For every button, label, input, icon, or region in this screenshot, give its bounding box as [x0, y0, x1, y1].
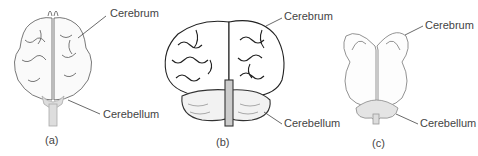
label-cerebellum-c: Cerebellum — [420, 117, 476, 129]
brain-a — [14, 11, 106, 126]
label-cerebrum-c: Cerebrum — [425, 19, 474, 31]
label-cerebrum-b: Cerebrum — [284, 10, 333, 22]
caption-a: (a) — [45, 134, 58, 146]
label-cerebellum-a: Cerebellum — [103, 108, 159, 120]
caption-c: (c) — [372, 137, 385, 149]
label-cerebrum-a: Cerebrum — [110, 7, 159, 19]
caption-b: (b) — [216, 136, 229, 148]
label-cerebellum-b: Cerebellum — [284, 117, 340, 129]
brain-c — [344, 26, 423, 124]
brain-b — [165, 18, 284, 126]
brain-diagram — [0, 0, 478, 156]
